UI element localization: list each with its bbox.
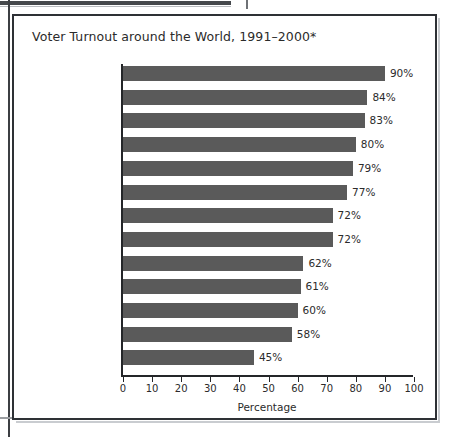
x-axis-tick <box>181 377 182 382</box>
bar-value-label: 77% <box>352 186 375 198</box>
bar-chart-plot-area: Italy90%Sweden84%Australia83%Turkey80%Sp… <box>14 16 439 422</box>
x-axis-tick <box>210 377 211 382</box>
x-axis-tick <box>269 377 270 382</box>
bar <box>123 137 356 152</box>
bar-value-label: 90% <box>390 67 413 79</box>
bar-value-label: 79% <box>358 162 381 174</box>
x-axis-title: Percentage <box>121 401 413 413</box>
bar-value-label: 60% <box>303 304 326 316</box>
bar <box>123 208 333 223</box>
x-axis-tick-label: 100 <box>399 383 429 394</box>
bar-value-label: 83% <box>370 114 393 126</box>
x-axis-tick <box>414 377 415 382</box>
bar-value-label: 72% <box>338 233 361 245</box>
bar <box>123 161 353 176</box>
page-rule-top <box>0 1 231 5</box>
x-axis-tick <box>356 377 357 382</box>
x-axis-line <box>121 375 413 377</box>
x-axis-tick-label: 20 <box>166 383 196 394</box>
bar-value-label: 61% <box>306 280 329 292</box>
x-axis-tick-label: 70 <box>312 383 342 394</box>
x-axis-tick <box>123 377 124 382</box>
bar <box>123 256 303 271</box>
x-axis-tick <box>327 377 328 382</box>
bar <box>123 303 298 318</box>
x-axis-tick-label: 0 <box>108 383 138 394</box>
bar <box>123 279 301 294</box>
page-tick-mark <box>246 0 248 9</box>
bar-value-label: 72% <box>338 209 361 221</box>
bar <box>123 232 333 247</box>
bar <box>123 185 347 200</box>
bar-value-label: 62% <box>308 257 331 269</box>
x-axis-tick-label: 10 <box>137 383 167 394</box>
bar <box>123 66 385 81</box>
bar <box>123 113 365 128</box>
bar <box>123 90 367 105</box>
figure-container: Voter Turnout around the World, 1991–200… <box>12 14 437 420</box>
x-axis-tick-label: 30 <box>195 383 225 394</box>
page-rule-top-hairline <box>0 6 231 7</box>
x-axis-tick-label: 50 <box>254 383 284 394</box>
bar <box>123 350 254 365</box>
x-axis-tick-label: 80 <box>341 383 371 394</box>
x-axis-tick <box>298 377 299 382</box>
bar <box>123 327 292 342</box>
bar-value-label: 80% <box>361 138 384 150</box>
x-axis-tick <box>152 377 153 382</box>
bar-value-label: 84% <box>372 91 395 103</box>
page-edge-left-rule <box>8 0 10 437</box>
x-axis-tick-label: 90 <box>370 383 400 394</box>
x-axis-tick-label: 60 <box>283 383 313 394</box>
x-axis-tick-label: 40 <box>224 383 254 394</box>
bar-value-label: 45% <box>259 351 282 363</box>
bar-value-label: 58% <box>297 328 320 340</box>
x-axis-tick <box>239 377 240 382</box>
x-axis-tick <box>385 377 386 382</box>
